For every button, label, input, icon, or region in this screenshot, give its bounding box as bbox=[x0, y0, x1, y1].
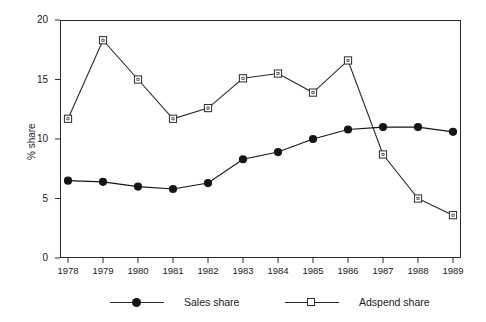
data-point-marker-inner bbox=[312, 91, 314, 93]
data-point-marker-inner bbox=[242, 77, 244, 79]
y-tick-label: 0 bbox=[22, 253, 48, 263]
data-point-marker bbox=[274, 148, 282, 156]
legend-item-adspend-share: Adspend share bbox=[285, 292, 430, 312]
data-point-marker-inner bbox=[137, 78, 139, 80]
data-point-marker-inner bbox=[452, 214, 454, 216]
chart-legend: Sales share Adspend share bbox=[0, 292, 486, 316]
y-tick-label: 20 bbox=[22, 15, 48, 25]
legend-label-sales-share: Sales share bbox=[184, 296, 239, 308]
data-point-marker bbox=[64, 177, 72, 185]
legend-label-adspend-share: Adspend share bbox=[359, 296, 430, 308]
x-tick-label: 1989 bbox=[431, 266, 475, 276]
data-point-marker bbox=[449, 128, 457, 136]
x-axis-ticks bbox=[68, 258, 453, 263]
data-point-marker-inner bbox=[172, 118, 174, 120]
data-point-marker bbox=[239, 155, 247, 163]
y-axis-ticks bbox=[55, 20, 60, 258]
y-tick-label: 15 bbox=[22, 75, 48, 85]
data-point-marker bbox=[134, 183, 142, 191]
data-point-marker bbox=[344, 125, 352, 133]
data-point-marker-inner bbox=[67, 118, 69, 120]
y-tick-label: 10 bbox=[22, 134, 48, 144]
legend-item-sales-share: Sales share bbox=[110, 292, 239, 312]
data-point-marker-inner bbox=[207, 107, 209, 109]
data-point-marker-inner bbox=[347, 59, 349, 61]
data-point-marker bbox=[169, 185, 177, 193]
data-point-marker-inner bbox=[277, 72, 279, 74]
data-point-marker bbox=[204, 179, 212, 187]
chart-page: % share 05101520 19781979198019811982198… bbox=[0, 0, 486, 322]
y-tick-label: 5 bbox=[22, 194, 48, 204]
legend-marker-filled-circle-icon bbox=[110, 295, 164, 309]
series-sales-share bbox=[64, 123, 457, 193]
data-point-marker-inner bbox=[417, 197, 419, 199]
legend-marker-open-square-icon bbox=[285, 295, 339, 309]
data-point-marker-inner bbox=[102, 39, 104, 41]
data-point-marker bbox=[99, 178, 107, 186]
data-point-marker bbox=[414, 123, 422, 131]
series-adspend-share bbox=[64, 37, 456, 219]
data-point-marker bbox=[379, 123, 387, 131]
data-point-marker-inner bbox=[382, 153, 384, 155]
data-point-marker bbox=[309, 135, 317, 143]
